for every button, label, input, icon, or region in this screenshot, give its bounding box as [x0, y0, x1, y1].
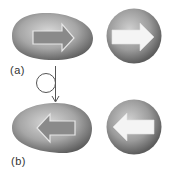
sphere-shape-b [107, 100, 162, 155]
egg-shape-a [12, 13, 93, 60]
diagram-canvas [0, 0, 170, 174]
panel-label-a: (a) [10, 64, 25, 76]
panel-label-b: (b) [11, 155, 26, 167]
egg-shape-b [12, 103, 92, 153]
loop-arrow-icon [37, 66, 60, 102]
sphere-shape-a [107, 9, 162, 64]
